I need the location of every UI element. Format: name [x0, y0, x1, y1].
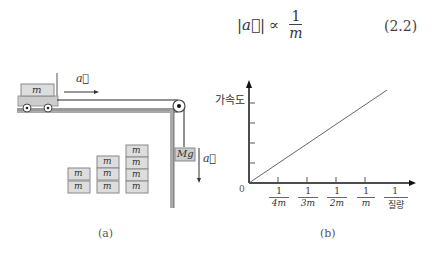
table-surface	[17, 108, 177, 111]
x-axis-arrow-icon	[409, 180, 416, 186]
y-axis-label: 가속도	[215, 91, 245, 107]
cart-accel-label: a⃗	[76, 72, 89, 85]
x-ticks	[278, 177, 365, 183]
table-leg	[170, 110, 174, 208]
origin-label: 0	[239, 184, 245, 194]
arrow-down-icon	[197, 178, 201, 183]
y-ticks	[249, 103, 255, 163]
figure-a-diagram	[0, 0, 446, 253]
data-line	[249, 90, 387, 183]
cart-mass-label: m	[32, 84, 41, 95]
hanging-accel-label: a⃗	[203, 152, 216, 165]
cart-body	[18, 96, 58, 106]
caption-b: (b)	[320, 227, 336, 240]
caption-a: (a)	[98, 227, 113, 240]
hanging-mass-label: Mg	[177, 148, 194, 159]
arrow-right-icon	[94, 90, 99, 94]
y-axis-arrow-icon	[246, 80, 252, 88]
